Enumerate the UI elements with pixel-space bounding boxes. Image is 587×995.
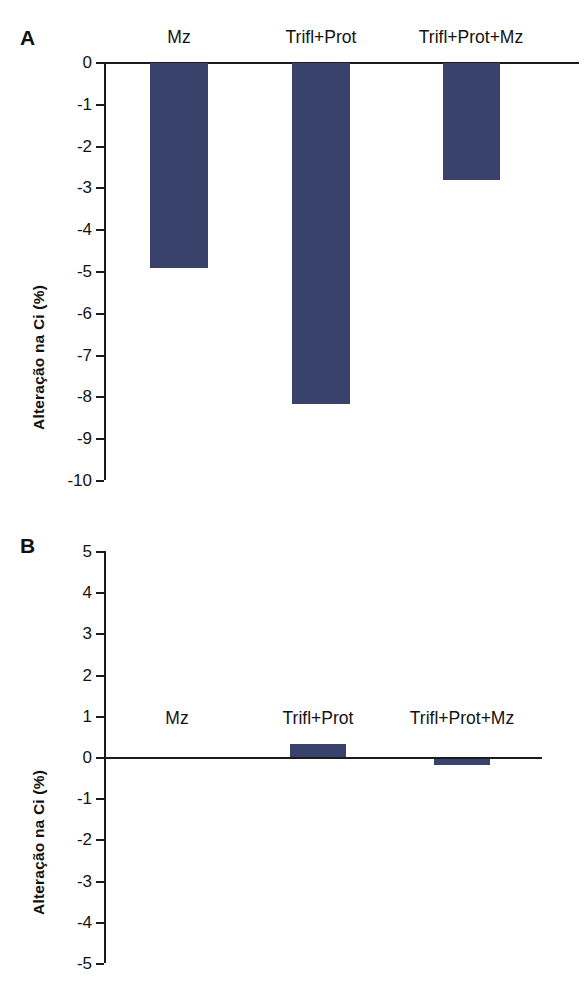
panel-b-tick-3 [96, 633, 104, 635]
panel-b-plot-area: 5 4 3 2 1 0 -1 -2 -3 -4 -5 Mz Trifl+Prot… [0, 515, 587, 995]
panel-b-category-label-mz: Mz [117, 710, 237, 728]
panel-a-tick-label-4: -4 [34, 221, 92, 238]
panel-a: A Alteração na Ci (%) 0 -1 -2 -3 -4 -5 -… [0, 0, 587, 515]
panel-a-tick-label-9: -9 [34, 430, 92, 447]
panel-a-y-axis [104, 62, 106, 480]
panel-a-bar-trifl-prot-mz [443, 63, 500, 180]
panel-a-tick-label-5: -5 [34, 263, 92, 280]
panel-a-tick-label-10: -10 [34, 472, 92, 489]
panel-a-tick-0 [96, 62, 104, 64]
panel-b-bar-trifl-prot [290, 744, 346, 757]
panel-a-category-label-trifl-prot: Trifl+Prot [261, 29, 381, 47]
panel-a-plot-area: 0 -1 -2 -3 -4 -5 -6 -7 -8 -9 -10 Mz Trif… [0, 0, 587, 515]
panel-b-tick-5 [96, 551, 104, 553]
panel-b-tick-0 [96, 757, 104, 759]
panel-a-tick-label-1: -1 [34, 96, 92, 113]
panel-a-tick-label-8: -8 [34, 388, 92, 405]
panel-b-tick-label-neg3: -3 [40, 873, 92, 890]
panel-b-tick-4 [96, 592, 104, 594]
panel-a-bar-trifl-prot [292, 63, 350, 404]
panel-a-tick-label-3: -3 [34, 179, 92, 196]
panel-a-category-label-mz: Mz [119, 29, 239, 47]
panel-b-tick-label-neg1: -1 [40, 790, 92, 807]
panel-b-tick-label-neg2: -2 [40, 831, 92, 848]
panel-a-tick-label-7: -7 [34, 347, 92, 364]
panel-b-tick-label-1: 1 [40, 708, 92, 725]
panel-a-tick-5 [96, 271, 104, 273]
panel-b-category-label-trifl-prot: Trifl+Prot [258, 710, 378, 728]
panel-a-tick-1 [96, 104, 104, 106]
panel-a-tick-2 [96, 146, 104, 148]
panel-a-tick-3 [96, 187, 104, 189]
panel-b-tick-neg4 [96, 922, 104, 924]
panel-a-tick-label-6: -6 [34, 305, 92, 322]
panel-b-tick-label-0: 0 [40, 749, 92, 766]
panel-b-tick-neg2 [96, 839, 104, 841]
panel-b-tick-label-neg4: -4 [40, 914, 92, 931]
panel-b-tick-neg5 [96, 963, 104, 965]
panel-a-tick-label-2: -2 [34, 138, 92, 155]
panel-a-tick-9 [96, 438, 104, 440]
panel-b-bar-trifl-prot-mz [434, 759, 490, 765]
panel-a-tick-label-0: 0 [34, 54, 92, 71]
panel-a-bar-mz [150, 63, 208, 268]
panel-b-tick-neg1 [96, 798, 104, 800]
panel-a-tick-8 [96, 396, 104, 398]
panel-b: B Alteração na Ci (%) 5 4 3 2 1 0 -1 -2 … [0, 515, 587, 995]
panel-b-tick-label-neg5: -5 [40, 955, 92, 972]
panel-a-tick-10 [96, 480, 104, 482]
panel-a-tick-6 [96, 313, 104, 315]
panel-b-tick-label-5: 5 [40, 543, 92, 560]
panel-a-category-label-trifl-prot-mz: Trifl+Prot+Mz [398, 29, 544, 47]
panel-b-tick-2 [96, 675, 104, 677]
panel-b-tick-1 [96, 716, 104, 718]
panel-b-tick-label-2: 2 [40, 667, 92, 684]
panel-a-tick-4 [96, 229, 104, 231]
panel-b-tick-label-4: 4 [40, 584, 92, 601]
panel-a-tick-7 [96, 355, 104, 357]
panel-b-tick-label-3: 3 [40, 625, 92, 642]
panel-b-tick-neg3 [96, 881, 104, 883]
panel-b-category-label-trifl-prot-mz: Trifl+Prot+Mz [389, 710, 535, 728]
